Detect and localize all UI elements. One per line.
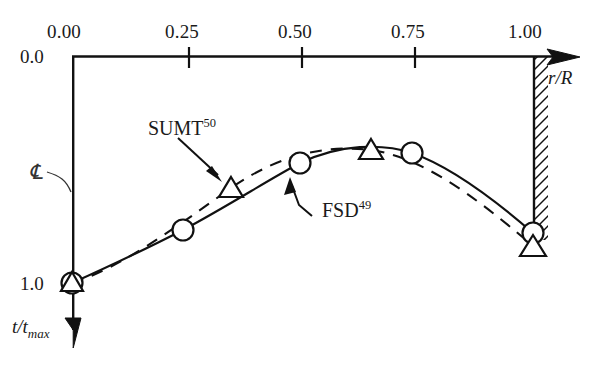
y-axis-label-0.0: 0.0 [20,47,44,66]
x-tick-label-1.00: 1.00 [508,22,542,41]
y-axis-label-1.0: 1.0 [20,274,44,293]
data-point-circle [290,153,311,174]
y-axis-name-subscript: max [28,326,50,341]
series-label-sumt: SUMT50 [148,118,216,138]
data-point-circle [402,143,423,164]
data-point-triangle [219,177,243,197]
plot-canvas [0,0,604,369]
data-point-circle [173,220,194,241]
figure-root: 0.00 0.25 0.50 0.75 1.00 0.0 1.0 ℄ SUMT5… [0,0,604,369]
series-label-fsd-superscript: 49 [359,198,372,212]
series-label-fsd: FSD49 [322,200,371,220]
y-axis-arrowhead [65,318,81,348]
y-axis-group [65,56,81,348]
fsd-annotation-arrow [284,177,312,216]
series-label-sumt-superscript: 50 [204,116,217,130]
x-tick-label-0.75: 0.75 [391,22,425,41]
centerline-symbol: ℄ [29,162,42,183]
x-axis-name-denominator: R [561,67,573,88]
x-tick-label-0.25: 0.25 [165,22,199,41]
series-label-fsd-text: FSD [322,199,359,221]
series-markers-fsd [62,143,544,294]
x-axis-name: r/R [548,68,572,87]
centerline-leader-line [47,172,71,192]
x-tick-label-0.50: 0.50 [278,22,312,41]
y-axis-name: t/tmax [12,317,50,336]
x-axis-group [72,47,580,68]
fsd-arrowhead [284,177,296,195]
sumt-arrowhead [206,166,222,182]
series-label-sumt-text: SUMT [148,117,204,139]
x-tick-label-0.00: 0.00 [47,22,81,41]
sumt-annotation-arrow [178,138,222,182]
